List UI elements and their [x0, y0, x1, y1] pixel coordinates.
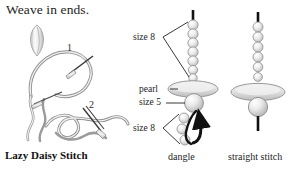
page-title: Weave in ends. [6, 3, 89, 17]
step-number-1: 1 [67, 43, 72, 53]
illustration-page: Weave in ends. 1 2 Lazy Daisy Stitch siz… [0, 0, 300, 170]
label-size-5: size 5 [139, 98, 161, 108]
label-size-8-dangle: size 8 [133, 124, 155, 134]
lazy-daisy-diagram [28, 25, 128, 141]
straight-stitch-diagram [231, 12, 285, 131]
thread-loop-lower [46, 115, 128, 139]
petal-shape [31, 25, 44, 56]
step-number-2: 2 [89, 100, 94, 110]
straight-bead-stack [253, 22, 263, 81]
leader-size8-upper [163, 22, 189, 77]
caption-lazy-daisy: Lazy Daisy Stitch [5, 150, 88, 161]
thread-loop-upper [30, 52, 91, 97]
upper-bead-stack [188, 20, 198, 82]
label-size-8-upper: size 8 [133, 33, 155, 43]
dangle-arrow [193, 120, 201, 143]
caption-straight-stitch: straight stitch [228, 152, 282, 162]
needle-left [31, 92, 62, 109]
caption-dangle: dangle [168, 152, 195, 162]
dangle-diagram [163, 10, 218, 145]
label-pearl: pearl [139, 85, 158, 95]
lower-bead-straight [248, 97, 267, 116]
size-5-bead [185, 94, 204, 113]
